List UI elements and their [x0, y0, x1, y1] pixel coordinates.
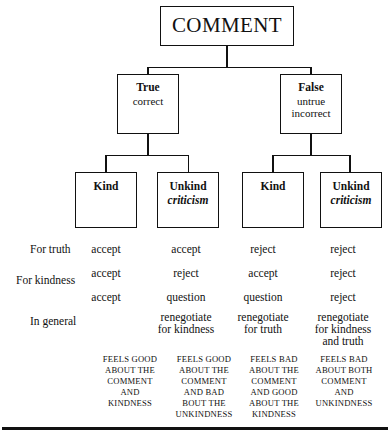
- cell-secondary-c3: question: [244, 291, 283, 303]
- caption-1-line-1: FEELS GOOD: [89, 354, 171, 365]
- node-true-line-1: correct: [133, 95, 164, 107]
- cell-general-c4: renegotiate for kindness and truth: [315, 311, 372, 348]
- row-label-for-kindness: For kindness: [16, 274, 75, 286]
- cell-general-c3: renegotiate for truth: [237, 311, 288, 335]
- node-unkind-false-sub: criticism: [331, 194, 372, 207]
- node-kind-true: Kind: [75, 172, 137, 228]
- node-false-head: False: [298, 81, 324, 94]
- connector-root-stem: [226, 46, 227, 68]
- cell-kindness-c1: accept: [91, 267, 120, 279]
- connector-true-stem: [147, 134, 148, 156]
- cell-truth-c2: accept: [171, 243, 200, 255]
- cell-truth-c3: reject: [250, 243, 276, 255]
- node-unkind-true-sub: criticism: [168, 194, 209, 207]
- caption-4-line-2: ABOUT BOTH: [303, 365, 385, 376]
- caption-4-line-5: UNKINDNESS: [303, 398, 385, 409]
- node-false-line-2: incorrect: [291, 107, 330, 119]
- row-label-for-truth: For truth: [30, 243, 71, 255]
- node-kind-true-head: Kind: [94, 180, 119, 193]
- node-unkind-true: Unkind criticism: [157, 172, 219, 228]
- caption-4-line-1: FEELS BAD: [303, 354, 385, 365]
- connector-false-to-unkind: [349, 155, 350, 173]
- node-true: True correct: [117, 74, 179, 134]
- cell-truth-c4: reject: [330, 243, 356, 255]
- cell-secondary-c4: reject: [330, 291, 356, 303]
- cell-kindness-c4: reject: [330, 267, 356, 279]
- node-false-line-1: untrue: [297, 95, 325, 107]
- connector-false-stem: [310, 134, 311, 156]
- connector-true-to-kind: [105, 155, 106, 173]
- node-comment: COMMENT: [160, 6, 294, 46]
- caption-4-line-3: COMMENT: [303, 376, 385, 387]
- node-true-head: True: [136, 81, 159, 94]
- node-kind-false-head: Kind: [261, 180, 286, 193]
- connector-false-to-kind: [272, 155, 273, 173]
- caption-1-line-5: KINDNESS: [89, 398, 171, 409]
- caption-1-line-3: COMMENT: [89, 376, 171, 387]
- cell-general-c2: renegotiate for kindness: [158, 311, 215, 335]
- node-unkind-false: Unkind criticism: [320, 172, 382, 228]
- cell-truth-c1: accept: [91, 243, 120, 255]
- node-comment-label: COMMENT: [172, 14, 282, 38]
- caption-3-line-6: KINDNESS: [233, 409, 315, 420]
- diagram-canvas: COMMENT True correct False untrue incorr…: [0, 0, 390, 437]
- cell-kindness-c2: reject: [173, 267, 199, 279]
- node-kind-false: Kind: [242, 172, 304, 228]
- connector-true-bar: [105, 155, 189, 156]
- cell-secondary-c1: accept: [91, 291, 120, 303]
- caption-block-4: FEELS BAD ABOUT BOTH COMMENT AND UNKINDN…: [303, 354, 385, 409]
- row-label-in-general: In general: [30, 315, 76, 327]
- node-unkind-true-head: Unkind: [169, 180, 206, 193]
- caption-1-line-2: ABOUT THE: [89, 365, 171, 376]
- bottom-divider: [2, 427, 388, 430]
- node-unkind-false-head: Unkind: [332, 180, 369, 193]
- cell-secondary-c2: question: [167, 291, 206, 303]
- connector-false-bar: [272, 155, 350, 156]
- cell-kindness-c3: accept: [248, 267, 277, 279]
- caption-block-1: FEELS GOOD ABOUT THE COMMENT AND KINDNES…: [89, 354, 171, 409]
- connector-root-bar: [147, 67, 311, 68]
- caption-4-line-4: AND: [303, 387, 385, 398]
- connector-true-to-unkind: [188, 155, 189, 173]
- node-false: False untrue incorrect: [280, 74, 342, 134]
- caption-1-line-4: AND: [89, 387, 171, 398]
